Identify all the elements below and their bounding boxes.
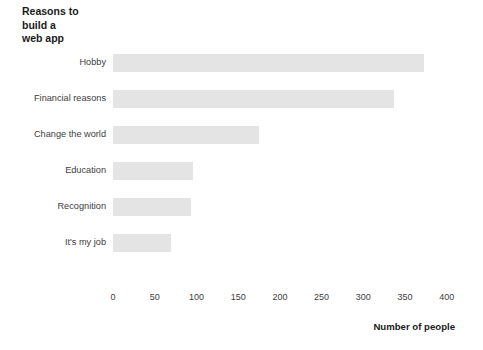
bar-row: Recognition bbox=[0, 198, 483, 216]
x-tick-label: 250 bbox=[314, 292, 329, 302]
x-tick-label: 300 bbox=[356, 292, 371, 302]
bar-row: Education bbox=[0, 162, 483, 180]
bar bbox=[113, 126, 259, 144]
bar-row: Financial reasons bbox=[0, 90, 483, 108]
bar bbox=[113, 234, 171, 252]
category-label: Hobby bbox=[0, 53, 112, 72]
x-tick-label: 50 bbox=[150, 292, 160, 302]
chart-title: Reasons to build a web app bbox=[22, 5, 132, 46]
category-label: It's my job bbox=[0, 233, 112, 252]
x-tick-label: 150 bbox=[231, 292, 246, 302]
bar-chart: Reasons to build a web app HobbyFinancia… bbox=[0, 0, 483, 350]
x-tick-label: 400 bbox=[439, 292, 454, 302]
x-axis: 050100150200250300350400 bbox=[0, 292, 483, 308]
category-label: Change the world bbox=[0, 125, 112, 144]
x-tick-label: 200 bbox=[272, 292, 287, 302]
bar-row: It's my job bbox=[0, 234, 483, 252]
x-tick-label: 350 bbox=[398, 292, 413, 302]
bar-row: Change the world bbox=[0, 126, 483, 144]
bar bbox=[113, 90, 394, 108]
category-label: Recognition bbox=[0, 197, 112, 216]
bar bbox=[113, 162, 193, 180]
category-label: Financial reasons bbox=[0, 89, 112, 108]
x-axis-title: Number of people bbox=[373, 321, 455, 332]
bar bbox=[113, 54, 424, 72]
bar-row: Hobby bbox=[0, 54, 483, 72]
category-label: Education bbox=[0, 161, 112, 180]
plot-area: HobbyFinancial reasonsChange the worldEd… bbox=[0, 48, 483, 288]
bar bbox=[113, 198, 191, 216]
x-tick-label: 100 bbox=[189, 292, 204, 302]
x-tick-label: 0 bbox=[110, 292, 115, 302]
